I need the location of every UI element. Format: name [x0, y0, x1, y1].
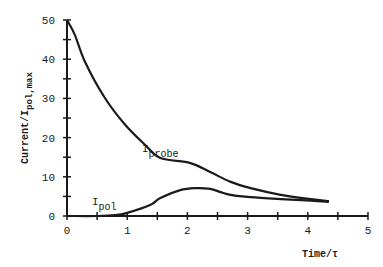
y-axis-label: Current/Ipol,max	[20, 71, 35, 163]
series-label-pol-main: I	[92, 196, 99, 208]
y-tick-label: 30	[42, 93, 55, 105]
x-tick-label: 3	[244, 225, 251, 237]
series-line-i-probe	[67, 20, 329, 201]
y-tick-label: 40	[42, 54, 55, 66]
y-tick-label: 20	[42, 133, 55, 145]
line-chart: 01234501020304050 Time/τ Current/Ipol,ma…	[0, 0, 383, 267]
x-tick-label: 1	[124, 225, 131, 237]
y-tick-label: 50	[42, 15, 55, 27]
series-label-pol-sub: pol	[99, 202, 117, 213]
y-tick-label: 0	[48, 211, 55, 223]
series-label-probe-sub: probe	[149, 149, 179, 160]
series-label-probe: Iprobe	[142, 143, 179, 160]
y-tick-label: 10	[42, 172, 55, 184]
x-tick-label: 5	[365, 225, 372, 237]
y-axis-label-sub: pol,max	[25, 71, 35, 109]
x-tick-label: 0	[64, 225, 71, 237]
y-axis-label-main: Current/I	[20, 110, 31, 164]
curves	[67, 20, 329, 216]
x-tick-label: 4	[304, 225, 311, 237]
series-label-pol: Ipol	[92, 196, 117, 213]
series-label-probe-main: I	[142, 143, 149, 155]
x-axis-label: Time/τ	[302, 249, 338, 260]
x-tick-label: 2	[184, 225, 191, 237]
